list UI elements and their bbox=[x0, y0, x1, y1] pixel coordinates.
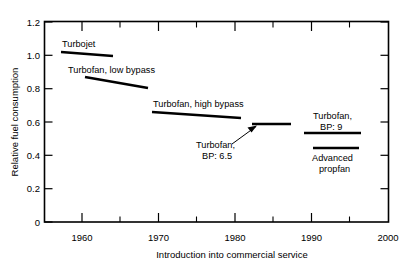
y-axis-title: Relative fuel consumption bbox=[9, 68, 20, 177]
chart-svg: 0 0.2 0.4 0.6 0.8 1.0 1.2 1960 1970 1980… bbox=[0, 0, 412, 269]
series-label-turbofan-bp65-line2: BP: 6.5 bbox=[202, 151, 232, 161]
y-axis-right-ticks bbox=[381, 22, 389, 189]
y-tick-labels: 0 0.2 0.4 0.6 0.8 1.0 1.2 bbox=[27, 17, 40, 228]
x-label-1960: 1960 bbox=[71, 232, 92, 243]
x-axis-title: Introduction into commercial service bbox=[156, 249, 308, 260]
y-label-0: 0 bbox=[35, 217, 40, 228]
x-tick-labels: 1960 1970 1980 1990 2000 bbox=[71, 232, 398, 243]
fuel-consumption-chart: 0 0.2 0.4 0.6 0.8 1.0 1.2 1960 1970 1980… bbox=[0, 0, 412, 269]
series-label-turbofan-bp9-line2: BP: 9 bbox=[320, 122, 342, 132]
x-label-1980: 1980 bbox=[224, 232, 245, 243]
series-line-turbofan-low-bypass bbox=[85, 77, 148, 88]
y-label-0.4: 0.4 bbox=[27, 150, 40, 161]
series-labels: Turbojet Turbofan, low bypass Turbofan, … bbox=[62, 39, 353, 174]
series-label-turbofan-high-bypass: Turbofan, high bypass bbox=[153, 99, 244, 109]
y-axis-ticks bbox=[45, 22, 53, 222]
series-label-advanced-propfan-line2: propfan bbox=[319, 164, 350, 174]
series-label-turbojet: Turbojet bbox=[62, 39, 96, 49]
x-axis-ticks bbox=[82, 213, 350, 222]
y-label-1.0: 1.0 bbox=[27, 50, 40, 61]
series-line-turbojet bbox=[61, 52, 113, 56]
series-label-advanced-propfan-line1: Advanced bbox=[312, 153, 353, 163]
series-label-turbofan-bp9-line1: Turbofan, bbox=[313, 111, 352, 121]
series-line-turbofan-high-bypass bbox=[152, 112, 241, 118]
x-axis-top-ticks bbox=[82, 22, 350, 31]
x-label-1970: 1970 bbox=[148, 232, 169, 243]
y-label-0.6: 0.6 bbox=[27, 117, 40, 128]
y-label-0.2: 0.2 bbox=[27, 183, 40, 194]
x-label-1990: 1990 bbox=[301, 232, 322, 243]
series-label-turbofan-bp65-line1: Turbofan, bbox=[196, 140, 235, 150]
x-label-2000: 2000 bbox=[377, 232, 398, 243]
y-label-0.8: 0.8 bbox=[27, 83, 40, 94]
bp65-leader bbox=[232, 126, 257, 145]
series-label-turbofan-low-bypass: Turbofan, low bypass bbox=[68, 65, 155, 75]
y-label-1.2: 1.2 bbox=[27, 17, 40, 28]
